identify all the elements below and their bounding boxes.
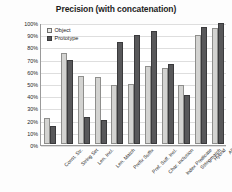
y-axis-tick-label: 90% <box>27 33 38 39</box>
legend-label: Prototype <box>55 35 79 41</box>
y-axis-tick-label: 100% <box>24 21 38 27</box>
bar-group <box>193 24 210 144</box>
chart-screenshot: Precision (with concatenation) DPAs with… <box>0 0 232 192</box>
bar-prototype <box>218 23 224 144</box>
y-axis-tick-label: 50% <box>27 82 38 88</box>
y-axis-tick-label: 60% <box>27 70 38 76</box>
y-axis-tick-label: 40% <box>27 94 38 100</box>
x-axis-tick-label: All <box>226 147 232 155</box>
chart-title: Precision (with concatenation) <box>0 4 232 14</box>
x-axis-tick-label: Len. Incl. <box>96 147 115 166</box>
bar-prototype <box>201 27 207 144</box>
bar-group <box>126 24 143 144</box>
x-axis-ticks: Const. Str.String SetLen. Incl.Len. Matc… <box>41 147 226 192</box>
y-axis-tick-label: 0% <box>30 143 38 149</box>
bar-prototype <box>151 31 157 144</box>
legend-item: Prototype <box>47 35 78 41</box>
legend-swatch-object <box>47 28 52 33</box>
bar-prototype <box>84 117 90 144</box>
bar-group <box>159 24 176 144</box>
bar-prototype <box>168 64 174 144</box>
bar-prototype <box>101 120 107 144</box>
bar-group <box>176 24 193 144</box>
chart-legend: ObjectPrototype <box>47 27 78 43</box>
legend-label: Object <box>55 27 71 33</box>
bar-group <box>109 24 126 144</box>
bar-prototype <box>184 95 190 144</box>
bar-prototype <box>134 35 140 144</box>
y-axis-tick-label: 30% <box>27 106 38 112</box>
y-axis-tick-label: 10% <box>27 131 38 137</box>
y-axis-tick-label: 80% <box>27 45 38 51</box>
bar-prototype <box>117 42 123 144</box>
bar-prototype <box>67 60 73 144</box>
y-axis-tick-label: 70% <box>27 58 38 64</box>
legend-swatch-prototype <box>47 36 52 41</box>
bar-group <box>92 24 109 144</box>
bar-prototype <box>50 126 56 144</box>
bar-group <box>142 24 159 144</box>
legend-item: Object <box>47 27 78 33</box>
y-axis-tick-label: 20% <box>27 119 38 125</box>
bar-group <box>209 24 226 144</box>
